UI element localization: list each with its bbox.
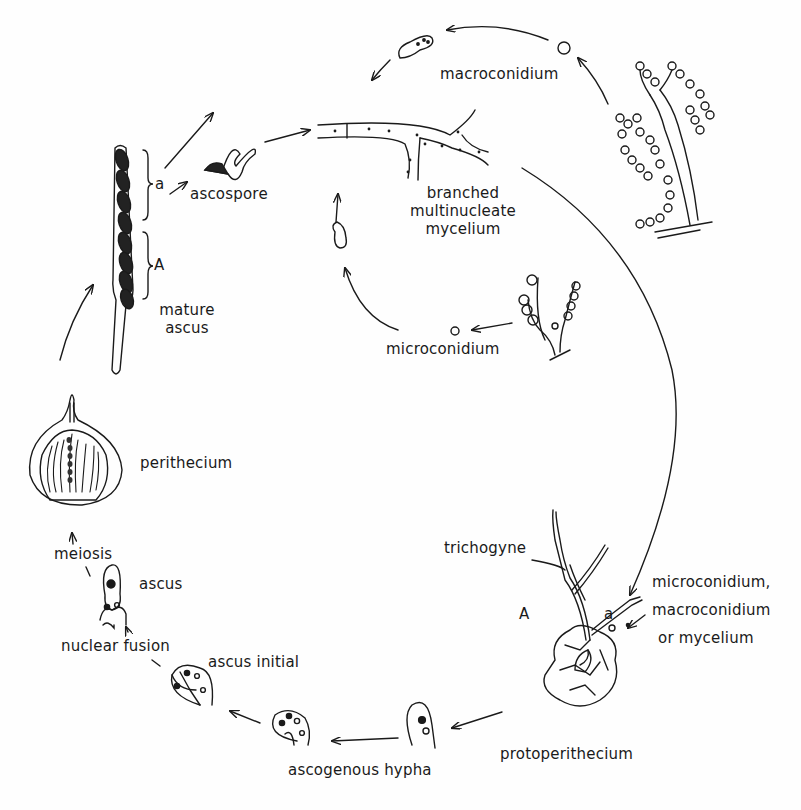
label-ascus: ascus (139, 576, 183, 593)
label-nuclear-fusion: nuclear fusion (61, 638, 170, 655)
label-mycelium-line3: mycelium (408, 221, 518, 238)
ascogenous-hypha-branching-icon (273, 711, 310, 745)
label-trichogyne: trichogyne (444, 540, 526, 557)
ascus-initial-icon (172, 665, 213, 705)
label-protoperithecium: protoperithecium (500, 746, 633, 763)
label-macroconidium: macroconidium (440, 66, 559, 83)
macroconidiophore-icon (616, 62, 714, 238)
trichogyne-icon (532, 510, 642, 640)
label-ascus-initial: ascus initial (208, 654, 299, 671)
label-fertilizer-line3: or mycelium (658, 630, 754, 647)
life-cycle-diagram: macroconidium ascospore a A branched mul… (0, 0, 801, 810)
ascogenous-hypha-icon (407, 703, 435, 749)
label-mycelium-line2: multinucleate (408, 203, 518, 220)
label-ascospore: ascospore (190, 186, 268, 203)
macroconidium-germinating-icon (399, 36, 433, 58)
microconidiophore-icon (519, 275, 580, 360)
microconidium-spore-icon (451, 327, 459, 335)
ascospore-icon (205, 149, 255, 179)
macroconidium-spore-icon (558, 42, 570, 54)
protoperithecium-icon (544, 625, 617, 706)
label-ascogenous-hypha: ascogenous hypha (288, 762, 432, 779)
label-mycelium-line1: branched (408, 185, 518, 202)
label-mating-type-A-ascus: A (154, 257, 164, 274)
label-fertilizer-line2: macroconidium (652, 602, 771, 619)
microconidium-germinating-icon (333, 222, 346, 248)
label-fertilizer-line1: microconidium, (652, 574, 771, 591)
label-mating-type-A-proto: A (519, 606, 529, 623)
label-mating-type-a-ascus: a (155, 176, 164, 193)
label-mating-type-a-proto: a (604, 606, 613, 623)
branched-mycelium-icon (318, 110, 488, 180)
label-mature-ascus-line2: ascus (152, 320, 222, 337)
perithecium-icon (30, 395, 122, 505)
ascus-cell-icon (100, 565, 126, 628)
diagram-drawing (0, 0, 801, 810)
label-microconidium: microconidium (386, 341, 500, 358)
mature-ascus-icon (112, 146, 153, 375)
label-meiosis: meiosis (54, 546, 112, 563)
fertilizing-spore-icon (609, 625, 615, 631)
label-mature-ascus-line1: mature (152, 302, 222, 319)
label-perithecium: perithecium (140, 455, 232, 472)
